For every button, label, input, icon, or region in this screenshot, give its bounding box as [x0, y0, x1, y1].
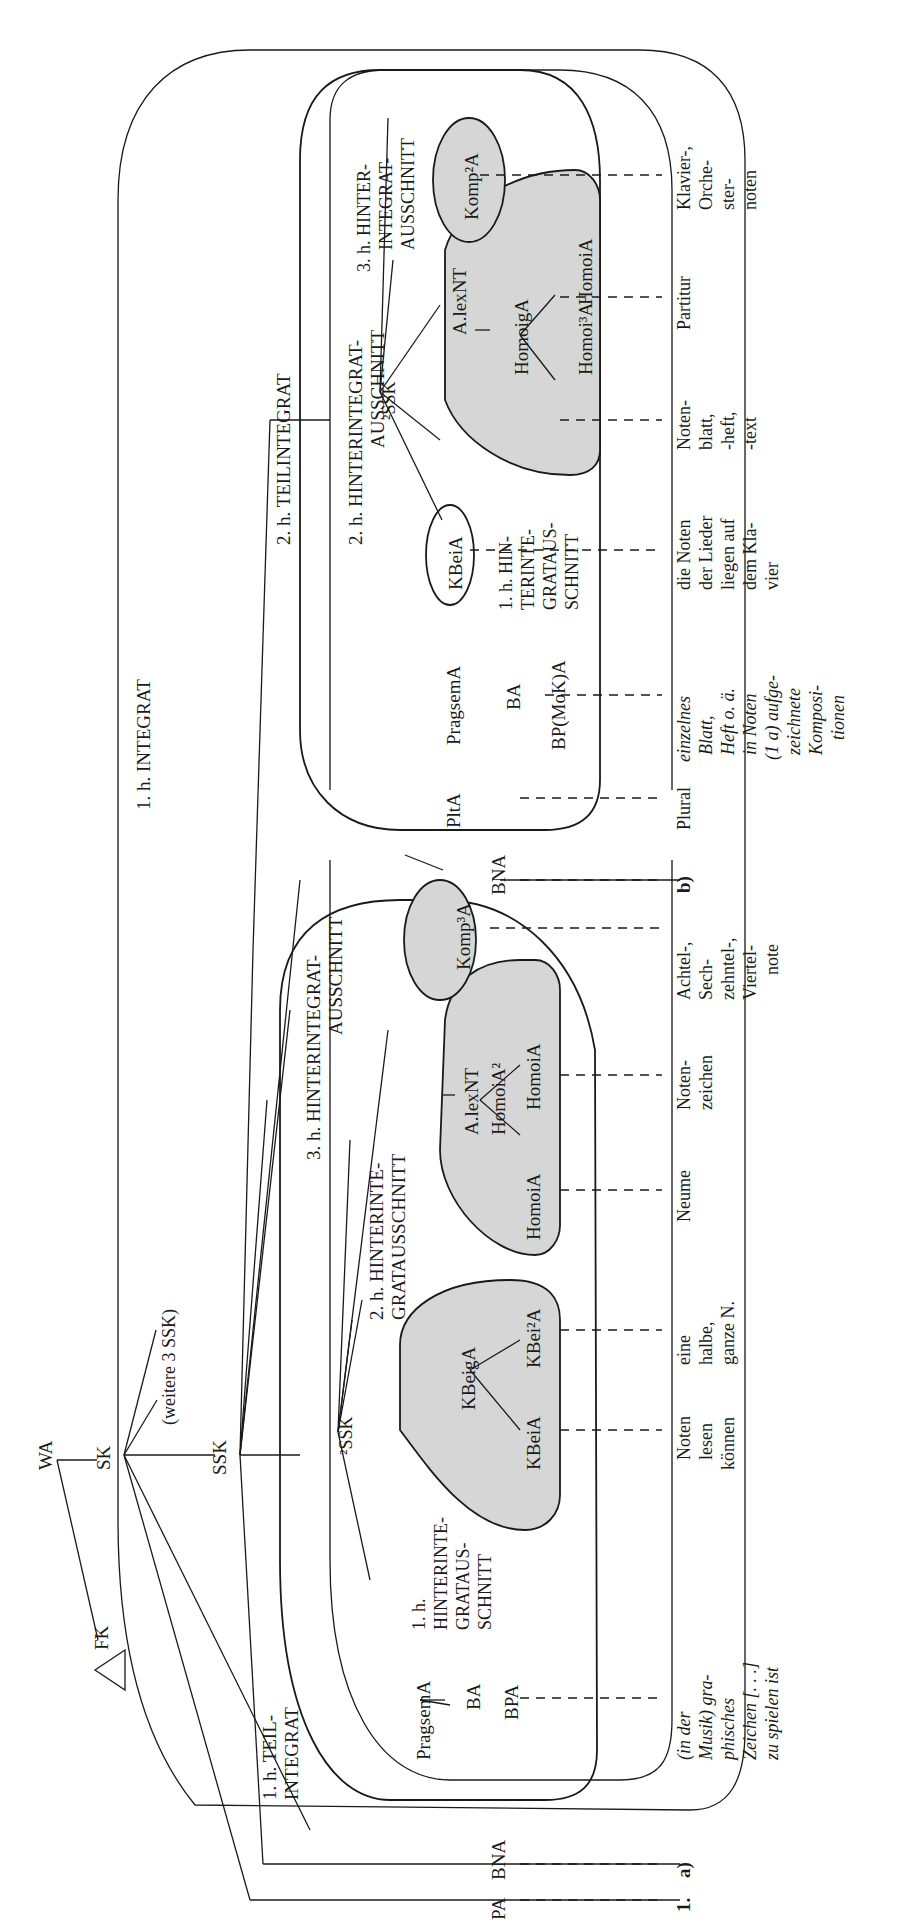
- label-bpmoka: BP(MoK)A: [548, 660, 570, 750]
- label-homoia2: HomoiA²: [488, 1063, 509, 1136]
- gloss-plural: Plural: [674, 787, 694, 830]
- label-homoia-l: HomoiA: [523, 1173, 544, 1240]
- gloss-homoi3a-l1: Noten-: [674, 400, 694, 450]
- label-komp2a: Komp²A: [461, 153, 482, 220]
- gloss-bpmoka-l7: Komposi-: [806, 685, 826, 756]
- label-hia3a-l2: AUSSCHNITT: [325, 916, 346, 1035]
- gloss-notenzeichen-l2: zeichen: [696, 1055, 716, 1110]
- gloss-kbeia-l3: können: [718, 1417, 738, 1470]
- label-hia1b-l1: 1. h. HIN-: [496, 536, 516, 610]
- label-alexnt-a: A.lexNT: [461, 1068, 482, 1135]
- label-pa: PA: [488, 1897, 509, 1920]
- marker-b: b): [673, 876, 695, 893]
- label-ba-b: BA: [503, 683, 524, 710]
- label-pragsem-b: PragsemA: [443, 666, 464, 745]
- label-2ssk-a: ²SSK: [336, 1417, 356, 1455]
- fk-triangle-icon: [95, 1650, 125, 1690]
- gloss-komp3a-l2: Sech-: [696, 959, 716, 1000]
- label-komp3a: Komp³A: [453, 903, 474, 970]
- label-hia1b-l2: TERINTE-: [518, 529, 538, 610]
- gloss-komp3a-l4: Viertel-: [740, 945, 760, 1000]
- semantic-tree-diagram: WA FK SK (weitere 3 SSK) SSK PA BNA BNA …: [0, 0, 918, 1929]
- gloss-bpmoka-l4: in Noten: [740, 694, 760, 756]
- label-kbeiga: KBeigA: [458, 1346, 479, 1410]
- label-ba-a: BA: [463, 1683, 484, 1710]
- label-hia1b-l4: SCHNITT: [562, 534, 582, 610]
- gloss-kbei2a-l3: ganze N.: [718, 1301, 738, 1365]
- label-wa: WA: [35, 1440, 56, 1470]
- gloss-bpa-l2: Musik) gra-: [696, 1675, 717, 1761]
- gloss-komp2a-l3: ster-: [718, 178, 738, 210]
- label-kbeia-a: KBeiA: [523, 1416, 544, 1470]
- label-bpa: BPA: [501, 1685, 522, 1720]
- gloss-notenzeichen-l1: Noten-: [674, 1060, 694, 1110]
- gloss-kbeia-b-l4: dem Kla-: [740, 523, 760, 590]
- label-more-ssk: (weitere 3 SSK): [159, 1309, 180, 1425]
- gloss-komp2a-l1: Klavier-,: [674, 146, 694, 210]
- label-hia2a-l2: GRATAUSSCHNITT: [388, 1153, 409, 1320]
- label-hia3b-l2: INTEGRAT-: [376, 158, 396, 250]
- labels: WA FK SK (weitere 3 SSK) SSK PA BNA BNA …: [35, 138, 848, 1920]
- label-homoia-b: HomoiA: [575, 238, 596, 305]
- gloss-bpa-l3: phisches: [718, 1698, 738, 1762]
- label-integrat-1: 1. h. INTEGRAT: [133, 679, 154, 810]
- gloss-bpmoka-l1: einzelnes: [674, 696, 694, 762]
- label-hia1a-l1: 1. h.: [409, 1599, 429, 1631]
- label-teilintegrat-1-l2: INTEGRAT: [281, 1707, 302, 1800]
- label-homoiga: HomoigA: [511, 299, 532, 375]
- gloss-komp2a-l2: Orche-: [696, 160, 716, 210]
- marker-a: a): [673, 1862, 695, 1878]
- gloss-homoi3a-l2: blatt,: [696, 414, 716, 451]
- label-pragsem-a: PragsemA: [413, 1681, 434, 1760]
- label-hia1a-l2: HINTERINTE-: [431, 1517, 451, 1630]
- label-alexnt-b: A.lexNT: [449, 268, 470, 335]
- gloss-komp3a-l5: note: [762, 944, 782, 975]
- gloss-bpmoka-l5: (1 a) aufge-: [762, 675, 783, 760]
- label-hia1a-l4: SCHNITT: [475, 1554, 495, 1630]
- gloss-kbeia-b-l5: vier: [762, 562, 782, 590]
- label-hia3a-l1: 3. h. HINTERINTEGRAT-: [303, 955, 324, 1160]
- gloss-bpa-l5: zu spielen ist: [762, 1666, 782, 1761]
- gloss-kbeia-l1: Noten: [674, 1416, 694, 1460]
- gloss-kbeia-b-l3: liegen auf: [718, 519, 738, 590]
- gloss-komp2a-l4: noten: [740, 170, 760, 210]
- gloss-kbei2a-l1: eine: [674, 1335, 694, 1365]
- label-hia2b-l2: AUSSCHNITT: [367, 329, 388, 448]
- label-sk: SK: [93, 1445, 114, 1470]
- gloss-kbei2a-l2: halbe,: [696, 1322, 716, 1365]
- label-ssk: SSK: [209, 1440, 230, 1475]
- label-fk: FK: [91, 1625, 112, 1650]
- gloss-kbeia-b-l1: die Noten: [674, 520, 694, 590]
- label-bna-a: BNA: [488, 1840, 509, 1880]
- label-hia2a-l1: 2. h. HINTERINTE-: [366, 1163, 387, 1320]
- gloss-komp3a-l3: zehntel-,: [718, 938, 738, 1000]
- gloss-pa: 1.: [673, 1898, 694, 1912]
- label-teilintegrat-1-l1: 1. h. TEIL-: [259, 1715, 280, 1800]
- label-bna-b: BNA: [488, 855, 509, 895]
- gloss-kbeia-l2: lesen: [696, 1423, 716, 1460]
- label-teilintegrat-2: 2. h. TEILINTEGRAT: [273, 373, 294, 545]
- label-homoi3a: Homoi³A: [575, 303, 596, 375]
- label-hia2b-l1: 2. h. HINTERINTEGRAT-: [345, 340, 366, 545]
- gloss-partitur: Partitur: [674, 276, 694, 330]
- label-kbeia-b: KBeiA: [445, 536, 466, 590]
- label-hia1a-l3: GRATAUS-: [453, 1542, 473, 1630]
- label-hia3b-l3: AUSSCHNITT: [398, 138, 418, 250]
- label-plta: PltA: [443, 793, 464, 828]
- gloss-homoi3a-l3: -heft,: [718, 412, 738, 450]
- label-hia1b-l3: GRATAUS-: [540, 522, 560, 610]
- gloss-bpmoka-l3: Heft o. ä.: [718, 688, 738, 756]
- gloss-bpa-l1: (in der: [674, 1711, 695, 1760]
- gloss-bpmoka-l8: tionen: [828, 695, 848, 740]
- label-hia3b-l1: 3. h. HINTER-: [354, 164, 374, 272]
- gloss-neume: Neume: [674, 1170, 694, 1222]
- gloss-homoi3a-l4: -text: [740, 417, 760, 450]
- gloss-kbeia-b-l2: der Lieder: [696, 516, 716, 590]
- gloss-bpa-l4: Zeichen [. . .]: [740, 1662, 760, 1760]
- gloss-komp3a-l1: Achtel-,: [674, 942, 694, 1000]
- gloss-bpmoka-l6: zeichnete: [784, 688, 804, 756]
- label-homoia-r: HomoiA: [523, 1043, 544, 1110]
- gloss-bpmoka-l2: Blatt,: [696, 716, 716, 756]
- label-kbei2a: KBei²A: [523, 1308, 544, 1368]
